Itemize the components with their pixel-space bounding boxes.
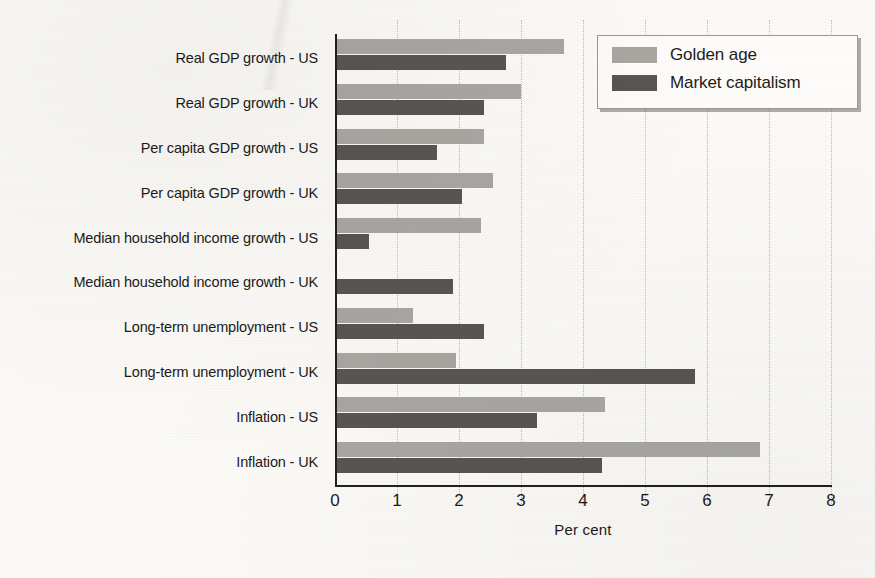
- y-axis-label: Median household income growth - US: [0, 215, 318, 260]
- bar-row: [335, 305, 831, 350]
- bar-row: [335, 126, 831, 171]
- y-axis-label: Real GDP growth - UK: [0, 81, 318, 126]
- x-axis-line: [335, 485, 832, 487]
- y-axis-label-text: Real GDP growth - UK: [175, 95, 318, 111]
- x-tick-1: 1: [392, 491, 401, 511]
- y-axis-label-text: Per capita GDP growth - US: [141, 140, 318, 156]
- y-axis-label-text: Long-term unemployment - US: [124, 319, 318, 335]
- y-axis-label-text: Real GDP growth - US: [175, 50, 318, 66]
- bar-golden-age: [335, 442, 760, 457]
- legend-item-market-capitalism: Market capitalism: [612, 73, 801, 93]
- bar-market-capitalism: [335, 145, 437, 160]
- y-axis-label-text: Inflation - UK: [236, 454, 318, 470]
- x-tick-4: 4: [578, 491, 587, 511]
- legend-label-market-capitalism: Market capitalism: [670, 73, 801, 93]
- bar-golden-age: [335, 308, 413, 323]
- x-axis-title: Per cent: [335, 521, 831, 538]
- bar-market-capitalism: [335, 279, 453, 294]
- bar-golden-age: [335, 84, 521, 99]
- y-axis-label-text: Median household income growth - US: [73, 230, 318, 246]
- y-axis-label: Per capita GDP growth - US: [0, 126, 318, 171]
- y-axis-label-text: Per capita GDP growth - UK: [141, 185, 318, 201]
- bar-market-capitalism: [335, 324, 484, 339]
- x-tick-7: 7: [764, 491, 773, 511]
- x-tick-6: 6: [702, 491, 711, 511]
- legend-item-golden-age: Golden age: [612, 45, 757, 65]
- bar-market-capitalism: [335, 458, 602, 473]
- bar-row: [335, 215, 831, 260]
- x-tick-2: 2: [454, 491, 463, 511]
- bar-golden-age: [335, 129, 484, 144]
- bar-market-capitalism: [335, 55, 506, 70]
- x-tick-3: 3: [516, 491, 525, 511]
- y-axis-label-text: Long-term unemployment - UK: [124, 364, 318, 380]
- bar-golden-age: [335, 353, 456, 368]
- legend-swatch-market-capitalism: [612, 75, 657, 91]
- y-axis-label: Median household income growth - UK: [0, 260, 318, 305]
- bar-chart: Real GDP growth - USReal GDP growth - UK…: [0, 0, 875, 578]
- bar-market-capitalism: [335, 100, 484, 115]
- x-tick-0: 0: [330, 491, 339, 511]
- bar-golden-age: [335, 39, 564, 54]
- bar-row: [335, 350, 831, 395]
- x-tick-5: 5: [640, 491, 649, 511]
- y-axis-label: Per capita GDP growth - UK: [0, 170, 318, 215]
- bar-row: [335, 394, 831, 439]
- bar-market-capitalism: [335, 189, 462, 204]
- y-axis-label: Inflation - UK: [0, 439, 318, 484]
- bar-market-capitalism: [335, 234, 369, 249]
- bar-golden-age: [335, 173, 493, 188]
- legend-swatch-golden-age: [612, 47, 657, 63]
- y-axis-label: Inflation - US: [0, 394, 318, 439]
- y-axis-label-text: Inflation - US: [236, 409, 318, 425]
- y-axis-category-labels: Real GDP growth - USReal GDP growth - UK…: [0, 36, 328, 484]
- y-axis-line: [335, 34, 337, 486]
- bar-golden-age: [335, 218, 481, 233]
- bar-market-capitalism: [335, 413, 537, 428]
- y-axis-label-text: Median household income growth - UK: [73, 274, 318, 290]
- bar-market-capitalism: [335, 369, 695, 384]
- bar-golden-age: [335, 397, 605, 412]
- y-axis-label: Real GDP growth - US: [0, 36, 318, 81]
- chart-legend: Golden age Market capitalism: [597, 35, 858, 109]
- bar-row: [335, 260, 831, 305]
- x-tick-8: 8: [826, 491, 835, 511]
- bar-row: [335, 439, 831, 484]
- bar-row: [335, 170, 831, 215]
- y-axis-label: Long-term unemployment - UK: [0, 350, 318, 395]
- y-axis-label: Long-term unemployment - US: [0, 305, 318, 350]
- legend-label-golden-age: Golden age: [670, 45, 757, 65]
